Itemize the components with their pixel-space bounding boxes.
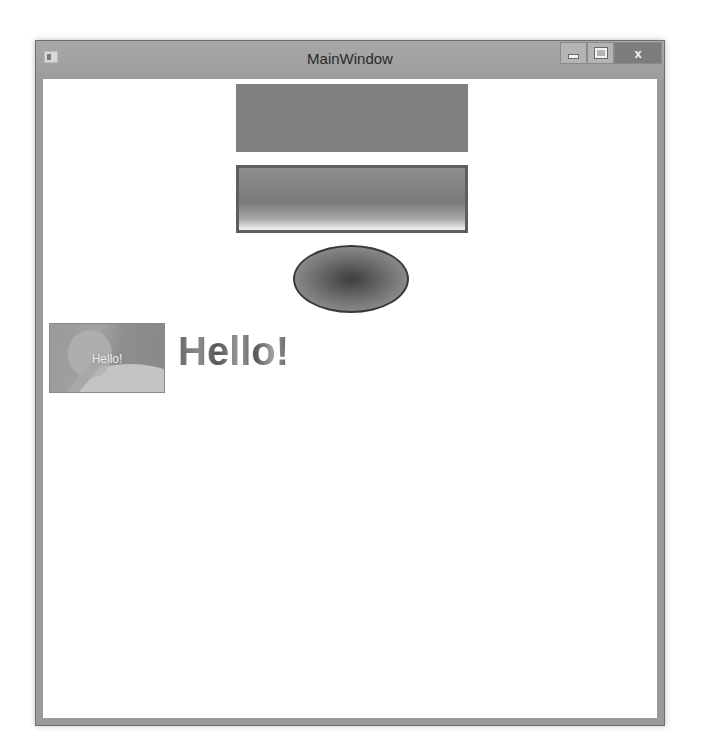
close-icon: x (634, 46, 641, 61)
maximize-button[interactable] (587, 42, 614, 64)
title-bar[interactable]: MainWindow x (36, 41, 664, 79)
maximize-icon (595, 48, 607, 58)
radial-gradient-ellipse (293, 245, 409, 313)
minimize-icon (568, 54, 579, 59)
photo-overlay-text: Hello! (50, 352, 164, 366)
minimize-button[interactable] (560, 42, 587, 64)
client-area: Hello! Hello! (43, 79, 657, 718)
main-window: MainWindow x Hello! Hello! (35, 40, 665, 726)
close-button[interactable]: x (614, 42, 662, 64)
solid-rectangle (236, 84, 468, 152)
gradient-rectangle (236, 165, 468, 233)
photo-image: Hello! (49, 323, 165, 393)
window-controls: x (560, 42, 662, 64)
image-brush-heading: Hello! (178, 329, 289, 374)
